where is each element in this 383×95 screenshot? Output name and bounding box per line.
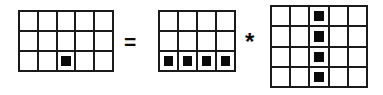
grid-cell-empty	[272, 48, 289, 66]
grid-cell-empty	[58, 32, 75, 50]
grid-cell-empty	[291, 48, 308, 66]
grid-cell-empty	[39, 52, 56, 70]
grid-cell-empty	[95, 52, 112, 70]
grid-cell-empty	[330, 68, 347, 86]
grid-cell-empty	[95, 12, 112, 30]
grid-cell-filled	[310, 48, 327, 66]
grid-cell-empty	[272, 68, 289, 86]
grid-cell-empty	[291, 7, 308, 25]
grid-cell-empty	[160, 32, 177, 50]
grid-cell-empty	[39, 12, 56, 30]
grid-cell-empty	[198, 12, 215, 30]
grid-cell-empty	[20, 52, 37, 70]
grid-cell-empty	[349, 48, 366, 66]
grid-result	[18, 10, 114, 72]
grid-cell-empty	[349, 27, 366, 45]
diagram-canvas: = *	[0, 0, 383, 95]
grid-cell-empty	[179, 12, 196, 30]
grid-cell-empty	[291, 68, 308, 86]
grid-cell-empty	[330, 27, 347, 45]
grid-cell-empty	[95, 32, 112, 50]
grid-cell-filled	[217, 52, 234, 70]
grid-cell-filled	[310, 27, 327, 45]
grid-cell-empty	[272, 27, 289, 45]
grid-cell-empty	[330, 48, 347, 66]
grid-cell-empty	[272, 7, 289, 25]
grid-cell-empty	[160, 12, 177, 30]
grid-cell-empty	[291, 27, 308, 45]
grid-cell-filled	[310, 7, 327, 25]
grid-cell-filled	[58, 52, 75, 70]
grid-cell-empty	[217, 32, 234, 50]
grid-cell-empty	[349, 68, 366, 86]
grid-cell-empty	[20, 32, 37, 50]
equals-sign-icon: =	[124, 31, 136, 52]
grid-cell-empty	[217, 12, 234, 30]
asterisk-convolution-icon: *	[245, 30, 254, 54]
grid-cell-empty	[330, 7, 347, 25]
grid-cell-empty	[179, 32, 196, 50]
grid-cell-empty	[20, 12, 37, 30]
grid-cell-empty	[39, 32, 56, 50]
grid-cell-filled	[160, 52, 177, 70]
grid-cell-filled	[198, 52, 215, 70]
grid-operand-a	[158, 10, 236, 72]
grid-cell-empty	[76, 32, 93, 50]
grid-cell-empty	[58, 12, 75, 30]
grid-cell-filled	[310, 68, 327, 86]
grid-operand-b	[270, 5, 368, 88]
grid-cell-empty	[76, 52, 93, 70]
grid-cell-empty	[349, 7, 366, 25]
grid-cell-filled	[179, 52, 196, 70]
grid-cell-empty	[198, 32, 215, 50]
grid-cell-empty	[76, 12, 93, 30]
